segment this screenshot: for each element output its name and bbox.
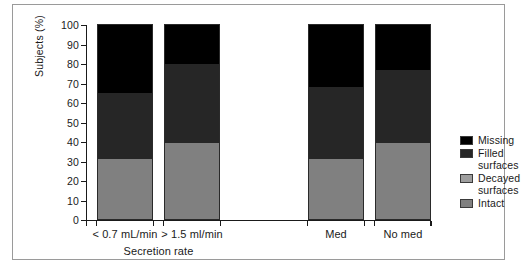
x-axis-line	[86, 220, 431, 221]
x-tick	[374, 221, 375, 226]
legend-label: Decayed surfaces	[478, 172, 520, 196]
legend-item-decayed-surfaces[interactable]: Decayed surfaces	[460, 172, 522, 196]
legend-item-filled-surfaces[interactable]: Filled surfaces	[460, 147, 522, 171]
legend-item-missing[interactable]: Missing	[460, 134, 522, 146]
x-label-no-med: No med	[343, 228, 463, 240]
bar-segment-missing	[165, 25, 219, 64]
y-tick-label: 0	[73, 215, 79, 225]
bar-no-med	[375, 24, 431, 220]
y-tick-label: 60	[67, 98, 79, 108]
y-tick	[81, 162, 86, 163]
bar-segment-missing	[376, 25, 430, 70]
y-axis-title: Subjects (%)	[33, 15, 45, 77]
x-tick	[96, 221, 97, 226]
x-tick	[220, 221, 221, 226]
bar-segment-intact	[165, 143, 219, 219]
y-tick	[81, 201, 86, 202]
bar-0-7-ml-min	[97, 24, 153, 220]
bar-segment-missing	[98, 25, 152, 93]
bar-segment-missing	[309, 25, 363, 87]
x-label-1-5-ml-min: > 1.5 ml/min	[132, 228, 252, 240]
y-tick-label: 80	[67, 59, 79, 69]
legend-label: Filled surfaces	[478, 147, 518, 171]
bar-segment-filled-surfaces	[309, 87, 363, 159]
y-tick	[81, 45, 86, 46]
y-tick	[81, 84, 86, 85]
x-tick	[307, 221, 308, 226]
y-tick	[81, 64, 86, 65]
x-tick	[163, 221, 164, 226]
y-tick	[81, 103, 86, 104]
legend-swatch-icon	[460, 174, 473, 183]
bar-segment-intact	[309, 159, 363, 219]
legend-item-intact[interactable]: Intact	[460, 197, 522, 209]
bar-segment-filled-surfaces	[376, 70, 430, 144]
y-tick-label: 40	[67, 137, 79, 147]
y-tick-label: 30	[67, 157, 79, 167]
y-tick	[81, 25, 86, 26]
legend-label: Missing	[478, 134, 514, 146]
y-tick-label: 70	[67, 79, 79, 89]
y-tick	[81, 181, 86, 182]
bar-med	[308, 24, 364, 220]
y-axis-line	[86, 25, 87, 221]
y-tick	[81, 123, 86, 124]
x-tick	[431, 221, 432, 226]
bar-segment-filled-surfaces	[98, 93, 152, 159]
legend-label: Intact	[478, 197, 504, 209]
legend-swatch-icon	[460, 149, 473, 158]
x-tick	[86, 221, 87, 226]
legend-swatch-icon	[460, 199, 473, 208]
legend-swatch-icon	[460, 136, 473, 145]
plot-area: 1009080706050403020100	[86, 25, 431, 221]
bar-segment-filled-surfaces	[165, 64, 219, 144]
x-tick	[430, 221, 431, 226]
x-axis-title: Secretion rate	[99, 245, 219, 257]
y-tick-label: 20	[67, 176, 79, 186]
figure-frame: Subjects (%) 1009080706050403020100 < 0.…	[12, 4, 505, 260]
x-tick	[153, 221, 154, 226]
bar-1-5-ml-min	[164, 24, 220, 220]
bar-segment-intact	[376, 143, 430, 219]
y-tick-label: 100	[61, 20, 79, 30]
y-tick-label: 90	[67, 40, 79, 50]
bar-segment-intact	[98, 159, 152, 219]
chart-legend: MissingFilled surfacesDecayed surfacesIn…	[460, 134, 522, 210]
x-tick	[364, 221, 365, 226]
y-tick-label: 50	[67, 118, 79, 128]
y-tick-label: 10	[67, 196, 79, 206]
y-tick	[81, 142, 86, 143]
